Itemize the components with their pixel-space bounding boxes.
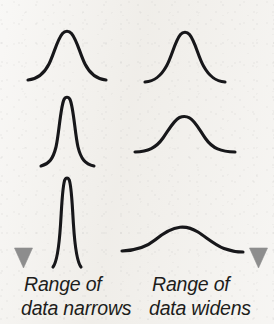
- caption-right: Range of data widens: [146, 272, 274, 320]
- curve-left-row-2: [41, 97, 94, 166]
- left-arrow-head-icon: [15, 248, 33, 268]
- caption-left-line-2: data narrows: [21, 296, 146, 320]
- right-arrow-head-icon: [250, 248, 268, 268]
- curve-left-row-1: [28, 31, 106, 80]
- curve-left-row-3: [53, 178, 81, 267]
- caption-row: Range of data narrows Range of data wide…: [0, 272, 274, 320]
- curve-right-row-2: [135, 117, 235, 152]
- curve-right-row-3: [122, 227, 243, 252]
- curve-right-row-1: [145, 32, 225, 82]
- caption-right-line-2: data widens: [149, 296, 274, 320]
- caption-right-line-1: Range of: [149, 272, 274, 296]
- left-direction-arrow: [15, 28, 33, 268]
- caption-left-line-1: Range of: [21, 272, 146, 296]
- right-direction-arrow: [250, 28, 268, 268]
- caption-left: Range of data narrows: [0, 272, 146, 320]
- distribution-spread-figure: Range of data narrows Range of data wide…: [0, 0, 274, 324]
